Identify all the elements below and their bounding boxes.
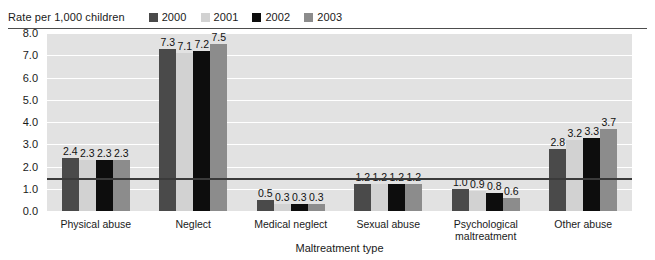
bar[interactable] xyxy=(193,51,210,211)
bar[interactable] xyxy=(274,204,291,211)
y-axis-tick-label: 4.0 xyxy=(23,116,38,128)
bar-slot: 1.0 xyxy=(452,33,469,211)
x-axis-tick-label: Psychological maltreatment xyxy=(437,218,535,242)
bar-slot: 0.8 xyxy=(486,33,503,211)
x-axis-tick-labels: Physical abuseNeglectMedical neglectSexu… xyxy=(47,218,632,242)
bar[interactable] xyxy=(96,160,113,211)
x-axis-tick-label: Physical abuse xyxy=(47,218,145,242)
legend-swatch-icon xyxy=(149,13,158,22)
legend-item-2003[interactable]: 2003 xyxy=(304,11,342,23)
bar[interactable] xyxy=(371,184,388,211)
bar-slot: 7.3 xyxy=(159,33,176,211)
bar[interactable] xyxy=(62,158,79,211)
bar-value-label: 0.5 xyxy=(258,187,272,199)
bar[interactable] xyxy=(469,191,486,211)
y-axis-tick-label: 8.0 xyxy=(23,27,38,39)
y-axis-tick-label: 0.0 xyxy=(23,205,38,217)
legend-label: 2001 xyxy=(214,11,239,23)
bar[interactable] xyxy=(583,138,600,211)
bar-slot: 7.1 xyxy=(176,33,193,211)
bar-value-label: 0.3 xyxy=(309,191,323,203)
bar[interactable] xyxy=(503,198,520,211)
y-axis-tick-label: 7.0 xyxy=(23,49,38,61)
bar[interactable] xyxy=(308,204,325,211)
chart-legend: 2000200120022003 xyxy=(149,11,343,23)
bar-value-label: 7.3 xyxy=(161,36,175,48)
x-axis-tick-label: Sexual abuse xyxy=(340,218,438,242)
bar-slot: 0.3 xyxy=(291,33,308,211)
bar[interactable] xyxy=(257,200,274,211)
bar[interactable] xyxy=(176,53,193,211)
chart-header: Rate per 1,000 children 2000200120022003 xyxy=(8,8,647,26)
bar[interactable] xyxy=(405,184,422,211)
bar-slot: 1.2 xyxy=(354,33,371,211)
y-axis-tick-label: 2.0 xyxy=(23,161,38,173)
bar-slot: 2.4 xyxy=(62,33,79,211)
bar-value-label: 2.4 xyxy=(63,145,77,157)
legend-item-2001[interactable]: 2001 xyxy=(201,11,239,23)
y-axis-tick-label: 6.0 xyxy=(23,72,38,84)
x-axis-tick-label: Neglect xyxy=(145,218,243,242)
y-axis-tick-label: 3.0 xyxy=(23,138,38,150)
bar[interactable] xyxy=(600,129,617,211)
bar-slot: 7.5 xyxy=(210,33,227,211)
legend-label: 2000 xyxy=(162,11,187,23)
legend-item-2000[interactable]: 2000 xyxy=(149,11,187,23)
bar-value-label: 0.6 xyxy=(504,185,518,197)
bar[interactable] xyxy=(113,160,130,211)
bar[interactable] xyxy=(210,44,227,211)
header-divider xyxy=(8,28,647,29)
bar-value-label: 3.3 xyxy=(585,125,599,137)
legend-label: 2003 xyxy=(317,11,342,23)
bar-value-label: 7.5 xyxy=(212,31,226,43)
bar-slot: 1.2 xyxy=(371,33,388,211)
bar[interactable] xyxy=(486,193,503,211)
legend-swatch-icon xyxy=(304,13,313,22)
bar[interactable] xyxy=(566,140,583,211)
legend-item-2002[interactable]: 2002 xyxy=(252,11,290,23)
y-axis-unit-label: Rate per 1,000 children xyxy=(8,11,125,23)
bar[interactable] xyxy=(291,204,308,211)
bar-value-label: 0.3 xyxy=(275,191,289,203)
bar-value-label: 7.2 xyxy=(195,38,209,50)
x-axis-title: Maltreatment type xyxy=(47,242,632,254)
bar-group: 2.83.23.33.7 xyxy=(535,33,633,211)
y-axis-tick-label: 5.0 xyxy=(23,94,38,106)
bar-slot: 7.2 xyxy=(193,33,210,211)
bar-value-label: 2.3 xyxy=(80,147,94,159)
legend-swatch-icon xyxy=(252,13,261,22)
bar-slot: 2.8 xyxy=(549,33,566,211)
bar-value-label: 2.3 xyxy=(114,147,128,159)
bar-slot: 0.9 xyxy=(469,33,486,211)
bar-slot: 1.2 xyxy=(405,33,422,211)
legend-swatch-icon xyxy=(201,13,210,22)
bar-slot: 0.6 xyxy=(503,33,520,211)
y-axis-tick-label: 1.0 xyxy=(23,183,38,195)
bar-slot: 2.3 xyxy=(96,33,113,211)
bar-value-label: 2.3 xyxy=(97,147,111,159)
y-axis: 0.01.02.03.04.05.06.07.08.0 xyxy=(0,33,44,215)
bar-slot: 0.5 xyxy=(257,33,274,211)
bar-group: 0.50.30.30.3 xyxy=(242,33,340,211)
bar-group: 1.00.90.80.6 xyxy=(437,33,535,211)
bar-chart: Rate per 1,000 children 2000200120022003… xyxy=(0,0,655,260)
x-axis-tick-label: Medical neglect xyxy=(242,218,340,242)
bar-slot: 3.7 xyxy=(600,33,617,211)
bar-value-label: 7.1 xyxy=(178,40,192,52)
bar[interactable] xyxy=(388,184,405,211)
bar-value-label: 3.7 xyxy=(602,116,616,128)
bar-group: 7.37.17.27.5 xyxy=(145,33,243,211)
bar[interactable] xyxy=(452,189,469,211)
bar-value-label: 2.8 xyxy=(551,136,565,148)
x-axis-line xyxy=(47,178,632,180)
bar[interactable] xyxy=(79,160,96,211)
bar[interactable] xyxy=(354,184,371,211)
bar-value-label: 0.8 xyxy=(487,180,501,192)
bar-value-label: 0.3 xyxy=(292,191,306,203)
bar-group: 1.21.21.21.2 xyxy=(340,33,438,211)
bar-slot: 1.2 xyxy=(388,33,405,211)
bar-slot: 0.3 xyxy=(274,33,291,211)
bar[interactable] xyxy=(159,49,176,211)
bar-slot: 3.3 xyxy=(583,33,600,211)
bar-slot: 0.3 xyxy=(308,33,325,211)
